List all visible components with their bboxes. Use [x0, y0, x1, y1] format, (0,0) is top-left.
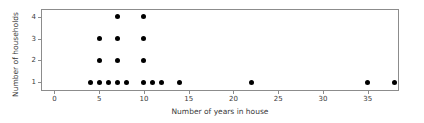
data-point: [97, 58, 102, 63]
data-point: [115, 14, 120, 19]
y-axis-tick: [38, 17, 41, 18]
x-axis-tick-label: 25: [274, 95, 283, 103]
data-point: [97, 80, 102, 85]
x-axis-tick-label: 35: [363, 95, 372, 103]
x-axis-tick: [278, 91, 279, 94]
x-axis-tick: [144, 91, 145, 94]
data-point: [88, 80, 93, 85]
data-point: [115, 36, 120, 41]
y-axis-tick: [38, 39, 41, 40]
data-point: [124, 80, 129, 85]
x-axis-tick-label: 20: [229, 95, 238, 103]
x-axis-tick: [368, 91, 369, 94]
data-point: [97, 36, 102, 41]
x-axis-tick-label: 30: [318, 95, 327, 103]
x-axis-tick: [189, 91, 190, 94]
y-axis-tick-label: 1: [29, 78, 36, 86]
data-point: [115, 80, 120, 85]
x-axis-title: Number of years in house: [41, 107, 399, 116]
y-axis-tick-label: 4: [29, 13, 36, 21]
x-axis-tick: [233, 91, 234, 94]
y-axis-tick-label: 3: [29, 35, 36, 43]
x-axis-tick: [54, 91, 55, 94]
data-point: [115, 58, 120, 63]
x-axis-tick-label: 0: [52, 95, 56, 103]
y-axis-tick: [38, 82, 41, 83]
data-point: [177, 80, 182, 85]
plot-area: [41, 9, 399, 91]
data-point: [249, 80, 254, 85]
y-axis-tick: [38, 60, 41, 61]
data-point: [392, 80, 397, 85]
x-axis-tick: [323, 91, 324, 94]
y-axis-title: Number of households: [11, 10, 20, 100]
data-point: [365, 80, 370, 85]
y-axis-tick-label: 2: [29, 56, 36, 64]
x-axis-tick-label: 10: [139, 95, 148, 103]
x-axis-tick: [99, 91, 100, 94]
data-point: [106, 80, 111, 85]
x-axis-tick-label: 5: [97, 95, 101, 103]
scatter-plot-figure: Number of households Number of years in …: [0, 0, 424, 123]
x-axis-tick-label: 15: [184, 95, 193, 103]
